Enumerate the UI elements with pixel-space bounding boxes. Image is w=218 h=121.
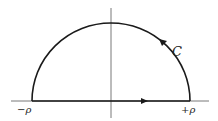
- segment-arrow-icon: [141, 98, 148, 104]
- right-endpoint-label: +ρ: [181, 104, 195, 115]
- contour-diagram: C −ρ +ρ: [0, 0, 218, 121]
- contour-label: C: [172, 44, 182, 59]
- left-endpoint-label: −ρ: [17, 104, 31, 115]
